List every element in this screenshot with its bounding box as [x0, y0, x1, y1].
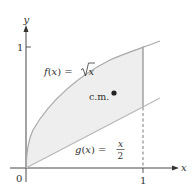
origin-label: 0 [16, 173, 22, 184]
y-tick-label: 1 [17, 42, 23, 53]
x-axis-arrow-icon [172, 166, 179, 171]
y-axis-label: y [23, 14, 30, 25]
center-of-mass-label: c.m. [89, 91, 109, 102]
x-axis-label: x [181, 162, 187, 173]
f-label: f(x) = [43, 66, 73, 77]
g-label-numerator: x [118, 139, 123, 149]
g-label: g(x) = [75, 144, 106, 155]
center-of-mass-point [111, 90, 116, 95]
diagram-canvas: y x 0 1 1 f(x) = x g(x) = x 2 c.m. [0, 0, 196, 193]
x-tick-label: 1 [140, 175, 146, 186]
y-axis-arrow-icon [24, 25, 29, 32]
f-label-radicand: x [89, 66, 95, 77]
g-label-denominator: 2 [118, 151, 124, 161]
